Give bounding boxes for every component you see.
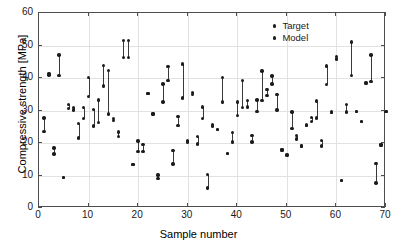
y-axis-tick xyxy=(38,142,42,143)
pair-connector-line xyxy=(351,42,352,75)
data-point-target xyxy=(241,79,244,82)
legend-marker-target-icon xyxy=(273,24,276,27)
x-axis-tick xyxy=(137,203,138,207)
pair-connector-line xyxy=(327,66,328,85)
data-point-target xyxy=(136,139,139,142)
data-point-model xyxy=(270,82,273,85)
pair-connector-line xyxy=(98,100,99,122)
data-point-model xyxy=(325,83,328,86)
data-point-target xyxy=(82,106,85,109)
data-point-model xyxy=(300,144,303,147)
data-point-target xyxy=(325,64,328,67)
data-point-model xyxy=(201,117,204,120)
y-axis-tick xyxy=(381,142,385,143)
pair-connector-line xyxy=(123,41,124,58)
y-axis-tick xyxy=(381,45,385,46)
y-axis-tick-label: 60 xyxy=(0,7,33,17)
data-point-model xyxy=(87,95,90,98)
data-point-model xyxy=(260,99,263,102)
x-axis-tick-label: 30 xyxy=(172,210,202,220)
data-point-target xyxy=(97,98,100,101)
y-axis-tick-label: 30 xyxy=(0,105,33,115)
data-point-target xyxy=(196,135,199,138)
y-axis-tick xyxy=(381,77,385,78)
data-point-target xyxy=(67,103,70,106)
x-axis-tick xyxy=(88,203,89,207)
data-point-target xyxy=(369,53,372,56)
data-point-target xyxy=(127,56,130,59)
data-point-target xyxy=(270,74,273,77)
data-point-model xyxy=(77,136,80,139)
y-axis-tick-label: 20 xyxy=(0,137,33,147)
x-axis-tick-label: 20 xyxy=(122,210,152,220)
data-point-model xyxy=(161,100,164,103)
data-point-model xyxy=(250,140,253,143)
data-point-model xyxy=(211,125,214,128)
data-point-model xyxy=(355,110,358,113)
data-point-model xyxy=(117,135,120,138)
data-point-target xyxy=(117,130,120,133)
data-point-model xyxy=(379,143,382,146)
data-point-model xyxy=(255,110,258,113)
data-point-target xyxy=(255,98,258,101)
data-point-model xyxy=(52,152,55,155)
pair-connector-line xyxy=(128,41,129,58)
y-axis-tick xyxy=(381,207,385,208)
data-point-model xyxy=(136,150,139,153)
x-axis-tick xyxy=(385,12,386,16)
gridline-vertical xyxy=(138,13,139,206)
data-point-target xyxy=(201,105,204,108)
x-axis-tick xyxy=(385,203,386,207)
pair-connector-line xyxy=(242,81,243,108)
data-point-target xyxy=(374,162,377,165)
x-axis-tick xyxy=(335,12,336,16)
legend-item-model: Model xyxy=(273,32,325,44)
data-point-model xyxy=(156,177,159,180)
legend-item-target: Target xyxy=(273,20,325,32)
data-point-model xyxy=(320,144,323,147)
x-axis-tick xyxy=(335,203,336,207)
x-axis-tick xyxy=(38,203,39,207)
data-point-target xyxy=(52,146,55,149)
data-point-model xyxy=(295,137,298,140)
x-axis-tick-label: 40 xyxy=(221,210,251,220)
gridline-horizontal xyxy=(39,143,384,144)
data-point-model xyxy=(141,143,144,146)
data-point-model xyxy=(305,124,308,127)
data-point-model xyxy=(340,179,343,182)
data-point-model xyxy=(226,152,229,155)
data-point-target xyxy=(122,39,125,42)
data-point-model xyxy=(241,106,244,109)
data-point-target xyxy=(236,100,239,103)
x-axis-tick xyxy=(187,12,188,16)
data-point-target xyxy=(231,131,234,134)
data-point-model xyxy=(280,148,283,151)
legend-label-model: Model xyxy=(282,33,308,43)
data-point-model xyxy=(122,56,125,59)
gridline-horizontal xyxy=(39,46,384,47)
data-point-target xyxy=(156,173,159,176)
x-axis-tick xyxy=(187,203,188,207)
data-point-model xyxy=(216,128,219,131)
pair-connector-line xyxy=(262,71,263,101)
data-point-model xyxy=(72,108,75,111)
data-point-target xyxy=(176,115,179,118)
legend-label-target: Target xyxy=(282,21,308,31)
data-point-target xyxy=(141,150,144,153)
data-point-model xyxy=(221,100,224,103)
data-point-target xyxy=(310,116,313,119)
data-point-model xyxy=(166,79,169,82)
data-point-model xyxy=(285,154,288,157)
data-point-model xyxy=(146,92,149,95)
data-point-model xyxy=(127,39,130,42)
x-axis-tick xyxy=(286,203,287,207)
gridline-horizontal xyxy=(39,176,384,177)
data-point-target xyxy=(260,69,263,72)
data-point-model xyxy=(330,110,333,113)
data-point-target xyxy=(171,149,174,152)
data-point-model xyxy=(236,114,239,117)
data-point-model xyxy=(47,73,50,76)
data-point-model xyxy=(57,74,60,77)
data-point-model xyxy=(112,119,115,122)
pair-connector-line xyxy=(108,70,109,114)
